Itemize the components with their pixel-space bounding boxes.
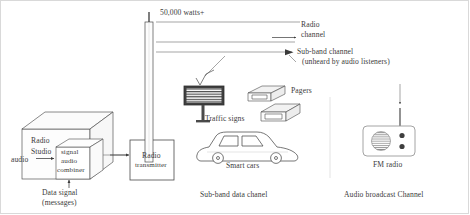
subband-channel-label-line2: (unheard by audio listeners): [302, 57, 390, 66]
studio-name-line2: Studio: [31, 147, 51, 156]
data-signal-caption-line2: (messages): [42, 198, 77, 207]
audio-broadcast-channel-caption: Audio broadcast Channel: [344, 190, 423, 199]
diagram-canvas: 50,000 watts+ Radio Studio audio signal …: [0, 0, 470, 215]
subband-channel-label-line1: Sub-band channel: [297, 47, 353, 56]
radio-channel-label-line1: Radio: [301, 20, 320, 29]
combiner-label-line3: combiner: [57, 166, 85, 175]
combiner-label-line2: audio: [61, 157, 77, 166]
fm-radio: [363, 108, 415, 156]
power-label: 50,000 watts+: [160, 8, 204, 17]
pager-device-2: [261, 104, 300, 121]
radio-channel-label-line2: channel: [301, 30, 325, 39]
pager-device-1: [248, 86, 285, 101]
audio-input-label: audio: [11, 155, 28, 164]
pagers-label: Pagers: [291, 86, 312, 95]
subband-arrowhead: [285, 49, 294, 55]
diagram-vector-layer: [0, 0, 470, 215]
combiner-label-line1: signal: [61, 148, 79, 157]
traffic-signs-label: Traffic signs: [205, 114, 244, 123]
subband-data-channel-caption: Sub-band data chanel: [200, 190, 267, 199]
studio-name-line1: Radio: [31, 136, 50, 145]
data-signal-caption-line1: Data signal: [42, 188, 77, 197]
smart-cars-label: Smart cars: [226, 161, 259, 170]
smart-car: [197, 132, 298, 163]
transmitter-label-line1: Radio: [142, 151, 161, 160]
transmitter-label-line2: transmitter: [135, 161, 167, 170]
subband-leader: [289, 55, 296, 62]
antenna-tower: [145, 12, 153, 162]
fm-radio-label: FM radio: [373, 160, 402, 169]
